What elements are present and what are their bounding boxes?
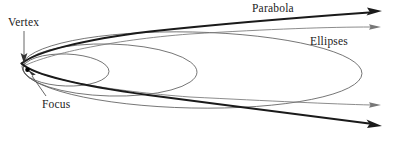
ellipses-label: Ellipses [310, 35, 348, 47]
focus-point-marker [25, 68, 30, 73]
parabola-upper-arrowhead [367, 8, 383, 16]
vertex-label: Vertex [8, 16, 39, 28]
ellipse-small [22, 53, 109, 88]
thin-curve-upper-arrowhead [369, 24, 381, 30]
focus-label: Focus [42, 98, 70, 110]
thin-curve-lower-arrowhead [369, 102, 381, 108]
thin-curve-lower-branch [24, 66, 371, 105]
parabola-lower-branch [22, 64, 370, 124]
parabola-label: Parabola [252, 2, 294, 14]
figure-canvas: Vertex Focus Parabola Ellipses [0, 0, 396, 143]
conic-sections-diagram [0, 0, 396, 143]
parabola-group [22, 8, 383, 129]
